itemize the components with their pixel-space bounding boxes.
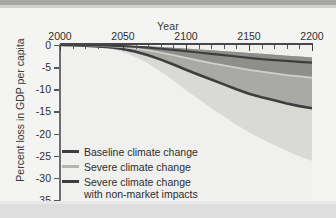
x-tick-2140 <box>236 45 237 49</box>
legend-label-severe-nonmarket: Severe climate change <box>84 176 191 188</box>
y-tick--15 <box>54 111 59 112</box>
y-tick-label--30: -30 <box>20 172 51 184</box>
x-tick-2120 <box>211 45 212 49</box>
legend-swatch-baseline <box>62 150 79 154</box>
legend-swatch-severe <box>62 165 79 169</box>
chart-legend: Baseline climate change Severe climate c… <box>62 144 262 189</box>
x-tick-2010 <box>73 45 74 49</box>
y-tick-label--5: -5 <box>20 61 51 73</box>
legend-label-severe-nonmarket-line2: with non-market impacts <box>84 188 198 200</box>
chart-figure: Year Percent loss in GDP per capita 2000… <box>0 8 336 202</box>
x-tick-2170 <box>274 45 275 49</box>
y-tick--30 <box>54 178 59 179</box>
x-tick-2020 <box>85 45 86 49</box>
legend-label-baseline: Baseline climate change <box>84 146 198 158</box>
x-tick-2080 <box>161 45 162 49</box>
legend-swatch-severe-nonmarket <box>62 180 79 184</box>
y-tick--10 <box>54 89 59 90</box>
y-tick-label--25: -25 <box>20 150 51 162</box>
y-tick-label--20: -20 <box>20 128 51 140</box>
y-axis-line <box>59 44 61 201</box>
legend-item-severe-nonmarket: Severe climate change <box>62 174 262 189</box>
x-tick-label-2050: 2050 <box>111 30 134 42</box>
x-tick-label-2150: 2150 <box>237 30 260 42</box>
y-tick--5 <box>54 67 59 68</box>
x-tick-2000 <box>60 45 61 51</box>
x-tick-2150 <box>249 45 250 51</box>
y-tick-0 <box>54 45 59 46</box>
page-scan-band-bottom <box>0 204 336 218</box>
x-tick-label-2000: 2000 <box>48 30 71 42</box>
x-tick-2160 <box>262 45 263 49</box>
legend-item-severe: Severe climate change <box>62 159 262 174</box>
x-tick-2100 <box>186 45 187 51</box>
x-tick-2070 <box>148 45 149 49</box>
x-tick-2060 <box>136 45 137 49</box>
x-tick-2090 <box>173 45 174 49</box>
legend-label-severe: Severe climate change <box>84 161 191 173</box>
y-tick--20 <box>54 134 59 135</box>
x-tick-label-2100: 2100 <box>174 30 197 42</box>
y-tick-label-0: 0 <box>20 39 51 51</box>
x-tick-2030 <box>98 45 99 49</box>
y-tick-label--15: -15 <box>20 105 51 117</box>
x-tick-2110 <box>199 45 200 49</box>
figure-page: Year Percent loss in GDP per capita 2000… <box>0 0 336 218</box>
y-tick-label--10: -10 <box>20 83 51 95</box>
x-tick-2200 <box>312 45 313 51</box>
y-tick--25 <box>54 156 59 157</box>
legend-item-baseline: Baseline climate change <box>62 144 262 159</box>
x-tick-2190 <box>299 45 300 49</box>
x-tick-label-2200: 2200 <box>300 30 323 42</box>
x-tick-2180 <box>287 45 288 49</box>
x-tick-2130 <box>224 45 225 49</box>
x-tick-2050 <box>123 45 124 51</box>
x-tick-2040 <box>110 45 111 49</box>
